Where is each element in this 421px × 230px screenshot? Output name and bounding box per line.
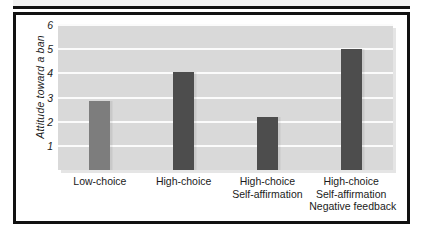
y-axis-tick-label: 1 bbox=[47, 141, 53, 152]
figure-border-box: Attitude toward a ban 123456 Low-choiceH… bbox=[13, 12, 410, 224]
x-axis-labels: Low-choiceHigh-choiceHigh-choiceSelf-aff… bbox=[58, 175, 393, 223]
x-axis-category-label: High-choiceSelf-affirmation bbox=[226, 175, 310, 200]
y-axis-title: Attitude toward a ban bbox=[34, 23, 46, 151]
x-axis-label-line: Self-affirmation bbox=[226, 188, 310, 201]
x-axis-label-line: High-choice bbox=[142, 175, 226, 188]
y-axis-tick-label: 2 bbox=[47, 116, 53, 127]
x-axis-label-line: Low-choice bbox=[58, 175, 142, 188]
y-axis-tick-label: 6 bbox=[47, 20, 53, 31]
x-axis-category-label: High-choiceSelf-affirmationNegative feed… bbox=[309, 175, 393, 213]
x-axis-label-line: High-choice bbox=[309, 175, 393, 188]
bar bbox=[257, 117, 278, 170]
upper-element-strip bbox=[13, 0, 410, 9]
bar-chart: Attitude toward a ban 123456 Low-choiceH… bbox=[16, 15, 413, 227]
figure-root: Attitude toward a ban 123456 Low-choiceH… bbox=[0, 0, 421, 230]
y-axis-tick-label: 3 bbox=[47, 92, 53, 103]
bar bbox=[173, 72, 194, 170]
x-axis-label-line: Self-affirmation bbox=[309, 188, 393, 201]
x-axis-category-label: Low-choice bbox=[58, 175, 142, 188]
bar bbox=[89, 101, 110, 170]
bars-layer bbox=[58, 25, 393, 170]
plot-panel: 123456 bbox=[58, 25, 393, 170]
y-axis-tick-label: 4 bbox=[47, 68, 53, 79]
x-axis-label-line: Negative feedback bbox=[309, 200, 393, 213]
x-axis-category-label: High-choice bbox=[142, 175, 226, 188]
y-axis-tick-label: 5 bbox=[47, 44, 53, 55]
x-axis-label-line: High-choice bbox=[226, 175, 310, 188]
bar bbox=[341, 49, 362, 170]
